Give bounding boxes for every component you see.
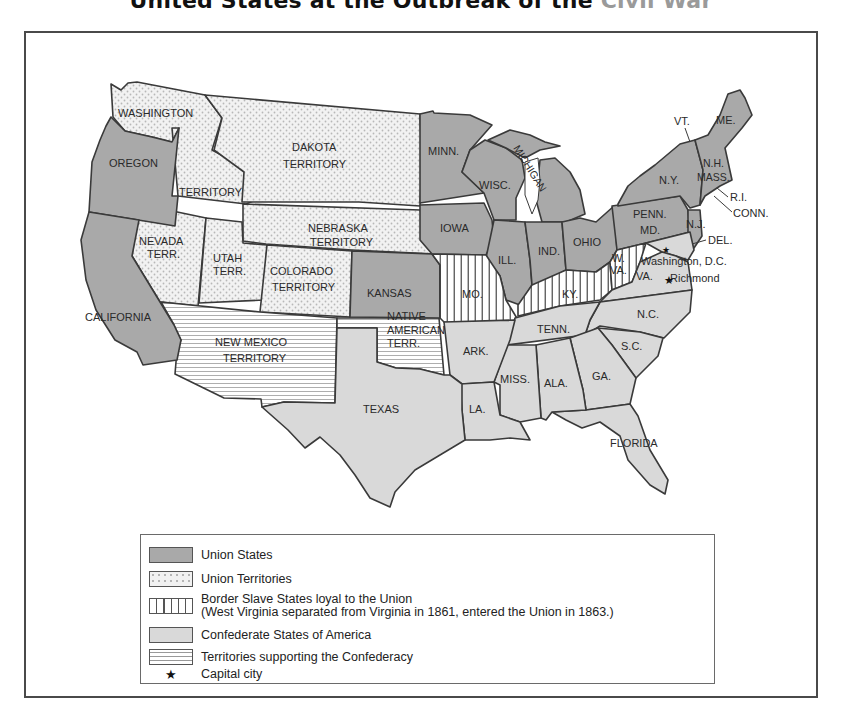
label-alabama: ALA. bbox=[544, 377, 568, 389]
label-native: NATIVE bbox=[387, 310, 426, 322]
legend-label: Confederate States of America bbox=[201, 629, 371, 642]
label-missouri: MO. bbox=[462, 288, 483, 300]
legend-label: Union States bbox=[201, 549, 273, 562]
label-richmond: Richmond bbox=[670, 272, 720, 284]
legend-item-union-states: Union States bbox=[149, 547, 273, 563]
region-florida bbox=[552, 404, 668, 494]
label-tennessee: TENN. bbox=[537, 323, 570, 335]
label-colorado-territory: TERRITORY bbox=[272, 281, 336, 293]
label-indiana: IND. bbox=[538, 245, 560, 257]
legend-label: Territories supporting the Confederacy bbox=[201, 651, 413, 664]
region-kansas bbox=[350, 251, 440, 318]
label-new-mexico-territory: TERRITORY bbox=[223, 352, 287, 364]
label-florida: FLORIDA bbox=[610, 437, 658, 449]
label-colorado: COLORADO bbox=[270, 265, 333, 277]
label-new-york: N.Y. bbox=[659, 174, 679, 186]
confederate-states-swatch bbox=[149, 627, 193, 643]
label-nevada: NEVADA bbox=[139, 235, 184, 247]
label-new-mexico: NEW MEXICO bbox=[215, 336, 288, 348]
legend-label: Union Territories bbox=[201, 573, 292, 586]
legend-label: Capital city bbox=[201, 668, 262, 681]
label-nebraska-territory: TERRITORY bbox=[310, 236, 374, 248]
label-new-hampshire: N.H. bbox=[703, 157, 724, 169]
label-native-terr: TERR. bbox=[387, 337, 420, 349]
label-washington-dc: Washington, D.C. bbox=[641, 255, 727, 267]
label-utah: UTAH bbox=[213, 252, 242, 264]
label-minnesota: MINN. bbox=[428, 145, 459, 157]
label-utah-terr: TERR. bbox=[213, 265, 246, 277]
union-states-swatch bbox=[149, 547, 193, 563]
legend-item-border-states: Border Slave States loyal to the Union (… bbox=[149, 593, 614, 619]
label-virginia: VA. bbox=[636, 270, 653, 282]
union-territories-swatch bbox=[149, 571, 193, 587]
label-louisiana: LA. bbox=[469, 403, 486, 415]
label-connecticut: CONN. bbox=[733, 207, 768, 219]
confederate-territories-swatch bbox=[149, 649, 193, 665]
legend-item-union-territories: Union Territories bbox=[149, 571, 292, 587]
label-kansas: KANSAS bbox=[367, 287, 412, 299]
label-arkansas: ARK. bbox=[463, 345, 489, 357]
label-dakota: DAKOTA bbox=[292, 141, 337, 153]
star-icon: ★ bbox=[149, 667, 193, 682]
label-california: CALIFORNIA bbox=[85, 311, 152, 323]
label-nevada-terr: TERR. bbox=[147, 248, 180, 260]
label-washington: WASHINGTON bbox=[118, 107, 193, 119]
label-georgia: GA. bbox=[592, 370, 611, 382]
label-west-virginia-va: VA. bbox=[610, 264, 627, 276]
label-vermont: VT. bbox=[674, 115, 690, 127]
region-new-england bbox=[695, 90, 752, 205]
border-states-swatch bbox=[149, 598, 193, 614]
label-american: AMERICAN bbox=[387, 324, 445, 336]
legend-label-note: (West Virginia separated from Virginia i… bbox=[201, 606, 614, 619]
map-legend: Union States Union Territories Border Sl… bbox=[140, 534, 715, 684]
label-nebraska: NEBRASKA bbox=[308, 222, 369, 234]
label-texas: TEXAS bbox=[363, 403, 399, 415]
label-rhode-island: R.I. bbox=[730, 191, 747, 203]
label-kentucky: KY. bbox=[562, 288, 578, 300]
label-dakota-territory: TERRITORY bbox=[283, 158, 347, 170]
star-icon-washington-dc: ★ bbox=[662, 245, 670, 255]
label-west-virginia-w: W. bbox=[612, 252, 625, 264]
label-iowa: IOWA bbox=[440, 222, 470, 234]
legend-item-confederate-states: Confederate States of America bbox=[149, 627, 371, 643]
label-new-jersey: N.J. bbox=[686, 218, 706, 230]
label-ohio: OHIO bbox=[573, 236, 602, 248]
label-wisconsin: WISC. bbox=[479, 179, 511, 191]
label-massachusetts: MASS. bbox=[697, 171, 730, 183]
legend-label: Border Slave States loyal to the Union (… bbox=[201, 593, 614, 619]
label-south-carolina: S.C. bbox=[621, 340, 642, 352]
label-pennsylvania: PENN. bbox=[633, 208, 667, 220]
label-maine: ME. bbox=[716, 114, 736, 126]
legend-item-capital-city: ★ Capital city bbox=[149, 667, 262, 682]
label-washington-territory: TERRITORY bbox=[179, 186, 243, 198]
label-oregon: OREGON bbox=[109, 157, 158, 169]
label-north-carolina: N.C. bbox=[637, 308, 659, 320]
legend-item-confederate-territories: Territories supporting the Confederacy bbox=[149, 649, 413, 665]
label-delaware: DEL. bbox=[708, 234, 732, 246]
label-mississippi: MISS. bbox=[500, 373, 530, 385]
label-maryland: MD. bbox=[640, 224, 660, 236]
label-illinois: ILL. bbox=[498, 254, 516, 266]
star-icon-richmond: ★ bbox=[664, 274, 674, 286]
